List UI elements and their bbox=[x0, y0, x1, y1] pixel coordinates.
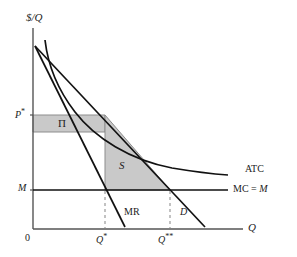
demand-label: D bbox=[180, 207, 187, 217]
mc-equals-text: MC = bbox=[233, 183, 259, 194]
diagram-canvas bbox=[0, 0, 297, 257]
qstarstar-label: Q** bbox=[158, 233, 173, 245]
x-axis-label: Q bbox=[248, 222, 256, 233]
economics-diagram: $/Q Q 0 P* M Q* Q** Π S MR D ATC MC = M bbox=[0, 0, 297, 257]
surplus-region-label: S bbox=[119, 160, 125, 171]
y-axis-label: $/Q bbox=[26, 12, 43, 23]
profit-rectangle-shape bbox=[33, 115, 105, 132]
mc-m-letter: M bbox=[259, 183, 267, 194]
marginal-revenue-label: MR bbox=[124, 207, 140, 217]
pstar-star: * bbox=[21, 107, 25, 116]
average-total-cost-label: ATC bbox=[245, 164, 264, 174]
profit-region-label: Π bbox=[58, 118, 66, 129]
pstar-label: P* bbox=[15, 108, 25, 120]
m-label: M bbox=[18, 183, 26, 193]
qstar-star: * bbox=[103, 232, 107, 241]
qstar-label: Q* bbox=[96, 233, 107, 245]
origin-label: 0 bbox=[25, 233, 30, 243]
demand-line bbox=[35, 46, 205, 227]
qstarstar-stars: ** bbox=[165, 232, 173, 241]
marginal-cost-label: MC = M bbox=[233, 184, 268, 194]
